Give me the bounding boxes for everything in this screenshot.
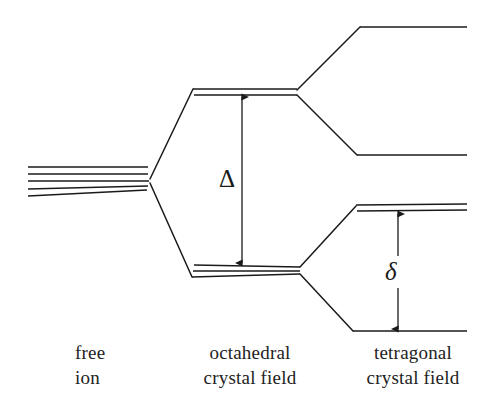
- octahedral-t2g-level-group: [192, 265, 300, 277]
- connector-eg-to-tetragonal-a: [297, 27, 360, 90]
- connector-eg-to-tetragonal-b: [297, 95, 357, 155]
- connector-group-octahedral-to-tetragonal: [297, 27, 360, 331]
- caption-free-ion-line2: ion: [75, 365, 105, 390]
- tetragonal-level-group: [353, 27, 467, 331]
- caption-tetragonal-line1: tetragonal: [367, 340, 460, 365]
- crystal-field-diagram: Δ δ free ion octahedral crystal field te…: [0, 0, 487, 411]
- caption-free-ion-line1: free: [75, 340, 105, 365]
- free-ion-level-4: [28, 186, 148, 189]
- connector-t2g-to-tetragonal-d: [300, 274, 353, 331]
- caption-tetragonal: tetragonal crystal field: [367, 340, 460, 390]
- connector-free-to-eg: [150, 89, 193, 179]
- tetragonal-level-c-lower: [357, 210, 467, 211]
- free-ion-level-5: [28, 190, 147, 196]
- caption-octahedral-line2: crystal field: [204, 365, 297, 390]
- connector-free-to-t2g: [150, 183, 192, 277]
- delta-tetragonal-label: δ: [385, 259, 397, 284]
- caption-octahedral: octahedral crystal field: [204, 340, 297, 390]
- caption-free-ion: free ion: [75, 340, 105, 390]
- connector-t2g-to-tetragonal-c: [300, 206, 356, 267]
- octahedral-t2g-upper: [194, 265, 300, 267]
- caption-tetragonal-line2: crystal field: [367, 365, 460, 390]
- octahedral-eg-level-group: [193, 89, 297, 95]
- caption-octahedral-line1: octahedral: [204, 340, 297, 365]
- octahedral-t2g-lower: [192, 274, 300, 277]
- connector-group-free-to-octahedral: [150, 89, 193, 277]
- free-ion-level-group: [28, 167, 149, 196]
- tetragonal-level-c-upper: [356, 204, 467, 205]
- delta-octahedral-label: Δ: [219, 166, 235, 191]
